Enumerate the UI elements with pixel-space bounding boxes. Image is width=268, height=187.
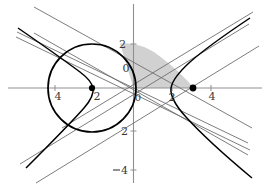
asymptote-line-4 — [34, 7, 252, 128]
x-label-neg2: 2 — [94, 90, 101, 103]
y-label-neg4: 4 — [121, 164, 128, 177]
shaded-triangular-sector — [120, 43, 194, 88]
focus-point — [190, 85, 197, 92]
origin-label-upper: 0 — [123, 62, 130, 75]
y-label-pos2: 2 — [119, 38, 126, 51]
cross-line-3 — [62, 12, 253, 128]
y-label-neg2: 2 — [121, 125, 128, 138]
figure-canvas: 4 2 2 4 2 2 4 0 0 — [0, 0, 268, 187]
x-label-neg4: 4 — [55, 90, 62, 103]
math-plot: 4 2 2 4 2 2 4 0 0 — [0, 0, 268, 187]
x-label-pos2: 2 — [169, 91, 176, 104]
shaded-region-group — [120, 43, 194, 88]
origin-label-lower: 0 — [135, 92, 141, 103]
x-label-pos4: 4 — [209, 90, 216, 103]
